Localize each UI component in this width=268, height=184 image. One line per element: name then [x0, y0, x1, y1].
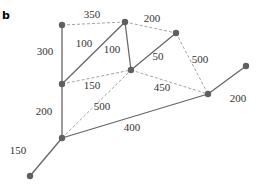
edge-weight-label: 450	[154, 81, 171, 93]
node-h	[59, 135, 65, 141]
node-g	[243, 63, 249, 69]
node-f	[205, 91, 211, 97]
edge-weight-label: 200	[36, 105, 53, 117]
edge-b-e	[125, 22, 131, 70]
node-d	[59, 81, 65, 87]
node-a	[59, 22, 65, 28]
edge-weight-label: 100	[76, 37, 93, 49]
edge-weight-label: 150	[84, 79, 101, 91]
edge-a-b	[62, 22, 125, 25]
graph-diagram: 3502003001001005050015045050020040020015…	[0, 0, 268, 184]
edge-weight-label: 200	[144, 12, 161, 24]
edge-weight-label: 400	[124, 121, 141, 133]
node-e	[128, 67, 134, 73]
edge-weight-label: 100	[104, 43, 121, 55]
edge-weight-label: 150	[10, 144, 27, 156]
node-c	[173, 30, 179, 36]
edge-weight-label: 200	[230, 92, 247, 104]
edge-h-i	[30, 138, 62, 176]
edge-weight-label: 500	[94, 100, 111, 112]
edge-f-g	[208, 66, 246, 94]
node-i	[27, 173, 33, 179]
edge-weight-label: 300	[37, 45, 54, 57]
edge-weight-label: 50	[153, 50, 165, 62]
edge-weight-label: 500	[192, 53, 209, 65]
node-b	[122, 19, 128, 25]
edge-weight-label: 350	[84, 8, 101, 20]
